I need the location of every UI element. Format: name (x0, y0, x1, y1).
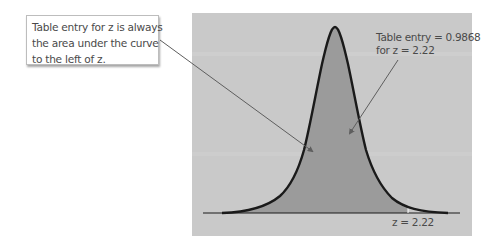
table-entry-z-label: for z = 2.22 (376, 44, 435, 56)
callout-line-2: the area under the curve (32, 35, 158, 51)
left-callout-box: Table entry for z is always the area und… (26, 15, 159, 65)
table-entry-label: Table entry = 0.9868 (375, 31, 480, 43)
z-value-label: z = 2.22 (392, 216, 434, 228)
callout-line-1: Table entry for z is always (32, 19, 158, 35)
callout-line-3: to the left of z. (32, 51, 158, 67)
